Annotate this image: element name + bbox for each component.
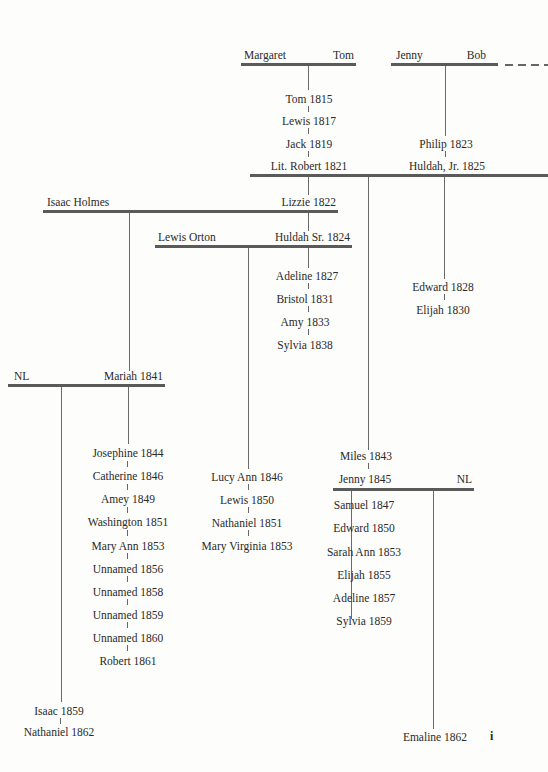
page-marker: i [490,729,493,744]
sibling-tick [127,461,128,467]
person-lewis-orton: Lewis Orton [158,230,216,244]
person-isaac-holmes: Isaac Holmes [47,195,109,209]
child-nathaniel-1851: Nathaniel 1851 [212,516,283,530]
child-unnamed-1859: Unnamed 1859 [93,608,164,622]
descent-line [368,177,369,450]
couple-line-isaac-lizzie [43,210,338,213]
child-edward-1828: Edward 1828 [412,280,474,294]
person-huldah-sr: Huldah Sr. 1824 [275,230,350,244]
person-bob: Bob [467,48,486,62]
person-lizzie: Lizzie 1822 [281,195,336,209]
sibling-tick [308,106,309,112]
descent-line [433,491,434,729]
descent-line [444,177,445,279]
child-robert-1861: Robert 1861 [99,654,156,668]
descent-line [308,248,309,268]
child-nathaniel-1862: Nathaniel 1862 [24,725,95,739]
descent-line [445,66,446,136]
child-sylvia-1859: Sylvia 1859 [336,614,391,628]
child-jack-1819: Jack 1819 [286,137,332,151]
couple-line-jenny-nl [333,488,474,491]
child-bristol-1831: Bristol 1831 [276,292,333,306]
descent-line [128,387,129,444]
person-nl: NL [14,369,29,383]
child-isaac-1859: Isaac 1859 [34,704,84,718]
child-amy-1833: Amy 1833 [281,315,330,329]
sibling-tick [308,151,309,157]
child-unnamed-1856: Unnamed 1856 [93,562,164,576]
child-elijah-1830: Elijah 1830 [416,303,469,317]
dashed-continuation-line [505,64,548,66]
person-tom: Tom [333,48,354,62]
sibling-tick [308,128,309,134]
descent-line [308,213,309,231]
child-miles-1843: Miles 1843 [340,449,392,463]
sibling-tick [445,151,446,157]
sibling-tick [127,507,128,513]
person-margaret: Margaret [244,48,286,62]
child-amey-1849: Amey 1849 [101,492,155,506]
sibling-tick [60,718,61,724]
couple-line-margaret-tom [241,63,356,66]
child-washington-1851: Washington 1851 [88,515,169,529]
sibling-tick [308,329,309,335]
sibling-tick [308,306,309,312]
person-jenny: Jenny [396,48,423,62]
child-edward-1850: Edward 1850 [333,521,395,535]
child-elijah-1855: Elijah 1855 [337,568,390,582]
sibling-tick [248,530,249,536]
sibling-tick [248,507,249,513]
descent-line [308,66,309,90]
couple-line-lewis-huldahsr [155,245,352,248]
child-emaline-1862: Emaline 1862 [403,730,467,744]
child-lucy-ann-1846: Lucy Ann 1846 [211,470,283,484]
child-mary-ann-1853: Mary Ann 1853 [92,539,165,553]
child-lewis-1817: Lewis 1817 [282,114,336,128]
child-sylvia-1838: Sylvia 1838 [277,338,332,352]
sibling-tick [248,484,249,490]
child-adeline-1857: Adeline 1857 [333,591,395,605]
sibling-tick [368,463,369,469]
person-jenny-1845: Jenny 1845 [339,472,392,486]
child-josephine-1844: Josephine 1844 [92,446,163,460]
couple-line-robert-huldahjr [250,174,548,177]
couple-line-nl-mariah [8,384,165,387]
person-lit-robert: Lit. Robert 1821 [271,159,347,173]
child-mary-virginia-1853: Mary Virginia 1853 [202,539,293,553]
child-unnamed-1860: Unnamed 1860 [93,631,164,645]
child-samuel-1847: Samuel 1847 [334,498,394,512]
person-nl: NL [457,472,472,486]
sibling-tick [308,283,309,289]
descent-line [129,213,130,371]
person-huldah-jr: Huldah, Jr. 1825 [409,159,485,173]
sibling-tick [127,622,128,628]
child-sarah-ann-1853: Sarah Ann 1853 [327,545,401,559]
descent-line [308,177,309,195]
sibling-tick [127,645,128,651]
person-mariah: Mariah 1841 [104,369,163,383]
sibling-tick [127,484,128,490]
child-tom-1815: Tom 1815 [286,92,333,106]
child-lewis-1850: Lewis 1850 [220,493,274,507]
descent-line [248,248,249,469]
descent-line [61,387,62,702]
sibling-tick [444,294,445,300]
child-philip-1823: Philip 1823 [419,137,472,151]
sibling-tick [127,553,128,559]
child-adeline-1827: Adeline 1827 [276,269,338,283]
sibling-tick [127,599,128,605]
child-catherine-1846: Catherine 1846 [93,469,164,483]
sibling-tick [127,530,128,536]
child-unnamed-1858: Unnamed 1858 [93,585,164,599]
sibling-tick [127,576,128,582]
